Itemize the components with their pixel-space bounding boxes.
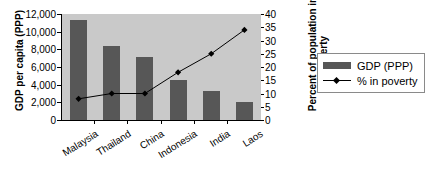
legend-bar-swatch-icon — [322, 62, 352, 69]
y-right-tick-label: 40 — [265, 9, 276, 20]
legend-line-marker-icon — [322, 77, 352, 84]
legend-label-poverty: % in poverty — [357, 75, 418, 87]
plot-area — [61, 14, 261, 121]
chart-container: GDP per capita (PPP) Percent of populati… — [0, 0, 430, 178]
poverty-line-path — [79, 30, 245, 99]
x-axis-category-labels: MalaysiaThailandChinaIndonesiaIndiaLaos — [61, 124, 271, 174]
y-right-tick-label: 35 — [265, 22, 276, 33]
poverty-marker-china — [142, 90, 148, 96]
legend-label-gdp: GDP (PPP) — [357, 60, 413, 72]
y-axis-right-ticks: 0510152025303540 — [265, 14, 289, 120]
legend-item-gdp: GDP (PPP) — [322, 58, 418, 73]
y-left-tick-label: 4,000 — [31, 79, 56, 90]
x-label-malaysia: Malaysia — [60, 128, 99, 158]
poverty-marker-malaysia — [75, 96, 81, 102]
y-left-tick-label: 6,000 — [31, 62, 56, 73]
y-right-tick-label: 15 — [265, 75, 276, 86]
y-right-tick-label: 5 — [265, 101, 271, 112]
y-right-tick-label: 20 — [265, 62, 276, 73]
chart-legend: GDP (PPP) % in poverty — [317, 53, 425, 93]
y-left-tick-label: 0 — [50, 115, 56, 126]
y-left-tick-label: 8,000 — [31, 44, 56, 55]
legend-item-poverty: % in poverty — [322, 73, 418, 88]
x-label-laos: Laos — [241, 128, 265, 149]
x-label-india: India — [208, 128, 232, 149]
y-axis-left-ticks: 02,0004,0006,0008,00010,00012,000 — [6, 14, 56, 120]
y-right-tick-label: 25 — [265, 48, 276, 59]
y-left-tick-label: 10,000 — [25, 26, 56, 37]
y-left-tick-label: 2,000 — [31, 97, 56, 108]
y-right-tick-label: 10 — [265, 88, 276, 99]
y-left-tick-label: 12,000 — [25, 9, 56, 20]
y-right-tick-label: 30 — [265, 35, 276, 46]
poverty-marker-thailand — [109, 90, 115, 96]
x-label-thailand: Thailand — [94, 128, 132, 158]
poverty-line-series — [62, 14, 261, 120]
poverty-marker-indonesia — [175, 69, 181, 75]
